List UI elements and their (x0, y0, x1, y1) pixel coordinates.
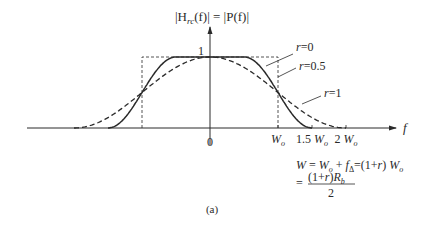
svg-text:2: 2 (328, 186, 334, 200)
svg-text:r=0: r=0 (296, 40, 313, 54)
raised-cosine-diagram: Wo1.5 Wo2 Wo |Hrc(f)| = |P(f)| 1 0 f r=0… (0, 0, 424, 226)
x-axis-label: f (403, 120, 409, 135)
svg-text:=: = (296, 176, 303, 190)
tick-label: Wo (271, 132, 285, 148)
peak-label: 1 (198, 44, 204, 58)
svg-text:r=0.5: r=0.5 (299, 59, 325, 73)
origin-label: 0 (207, 135, 213, 149)
bandwidth-equation: W = Wo + fΔ=(1+r) Wo = (1+r)Rb 2 (296, 158, 403, 200)
label-r1: r=1 (302, 86, 341, 104)
svg-text:r=1: r=1 (324, 86, 341, 100)
figure-caption: (a) (206, 203, 219, 216)
tick-label: 1.5 Wo (296, 132, 328, 148)
label-r05: r=0.5 (278, 59, 325, 77)
y-axis-title: |Hrc(f)| = |P(f)| (175, 9, 249, 26)
tick-label: 2 Wo (335, 132, 358, 148)
